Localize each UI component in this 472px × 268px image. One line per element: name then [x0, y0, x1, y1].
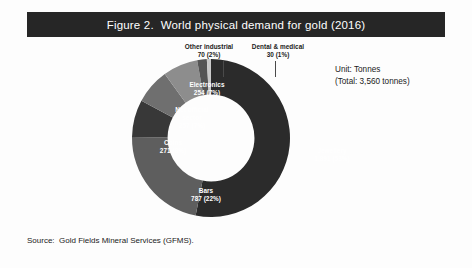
figure-page: Figure 2. World physical demand for gold…	[0, 0, 472, 268]
page-title: Figure 2. World physical demand for gold…	[107, 19, 366, 31]
slice-label-other-industrial: Other industrial 70 (2%)	[174, 43, 244, 59]
total-line: (Total: 3,560 tonnes)	[335, 76, 455, 88]
slice-label-electronics: Electronics 254 (7%)	[177, 81, 237, 97]
chart-area: Other industrial 70 (2%) Dental & medica…	[27, 40, 445, 230]
slice-label-net-official-sector: Net official sector 257 (7%)	[163, 106, 221, 131]
leader-line-other-industrial	[223, 61, 224, 77]
slice-label-bars: Bars 787 (22%)	[179, 187, 233, 203]
leader-line-dental-medical	[275, 61, 276, 77]
slice-label-jewellery: Jewellery 1,891 (53%)	[299, 147, 365, 163]
unit-annotation: Unit: Tonnes (Total: 3,560 tonnes)	[335, 64, 455, 88]
slice-label-dental-medical: Dental & medical 30 (1%)	[245, 43, 311, 59]
slice-label-coins: Coins 271 (8%)	[145, 139, 201, 155]
unit-line: Unit: Tonnes	[335, 64, 455, 76]
source-note: Source: Gold Fields Mineral Services (GF…	[27, 236, 194, 245]
figure-title-bar: Figure 2. World physical demand for gold…	[27, 12, 445, 37]
